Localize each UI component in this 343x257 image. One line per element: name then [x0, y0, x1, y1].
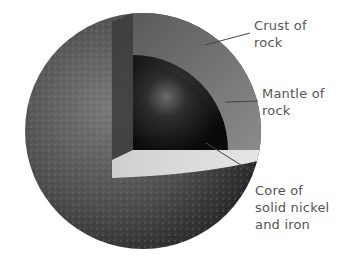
- label-crust-line-2: rock: [254, 34, 307, 51]
- label-crust-line-1: Crust of: [254, 17, 307, 34]
- label-core-line-3: and iron: [255, 216, 329, 233]
- label-mantle-line-1: Mantle of: [262, 85, 325, 102]
- label-crust: Crust of rock: [254, 17, 307, 51]
- label-core-line-1: Core of: [255, 182, 329, 199]
- label-mantle-line-2: rock: [262, 102, 325, 119]
- planet-cutaway-diagram: Crust of rock Mantle of rock Core of sol…: [0, 0, 343, 257]
- label-mantle: Mantle of rock: [262, 85, 325, 119]
- label-core: Core of solid nickel and iron: [255, 182, 329, 233]
- label-core-line-2: solid nickel: [255, 199, 329, 216]
